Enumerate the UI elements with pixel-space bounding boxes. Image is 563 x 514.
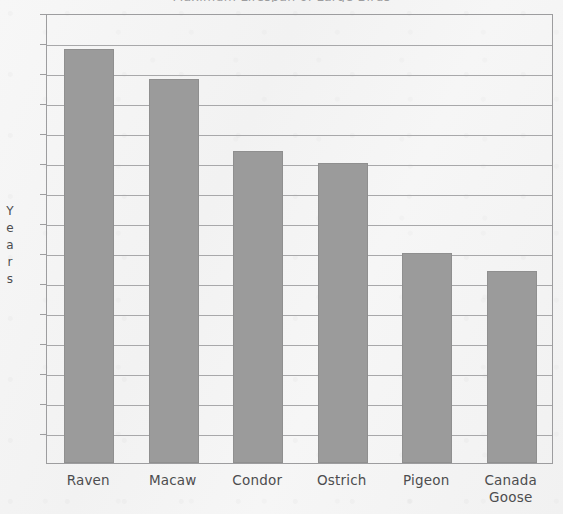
y-tick-mark [40, 14, 47, 15]
bar[interactable] [487, 271, 537, 463]
y-tick-mark [40, 344, 47, 345]
y-axis-title-letter: a [3, 237, 17, 254]
chart-title: Maximum Lifespan of Large Birds [0, 0, 563, 2]
gridline [47, 345, 552, 346]
y-tick-mark [40, 284, 47, 285]
gridline [47, 135, 552, 136]
gridline [47, 225, 552, 226]
bar[interactable] [233, 151, 283, 463]
chart-canvas: Maximum Lifespan of Large Birds Years 05… [0, 0, 563, 514]
y-tick-mark [40, 374, 47, 375]
gridline [47, 435, 552, 436]
y-axis-title-letter: Y [3, 203, 17, 220]
y-axis-title-letter: s [3, 271, 17, 288]
x-tick-label: Pigeon [384, 472, 469, 489]
gridline [47, 165, 552, 166]
gridline [47, 285, 552, 286]
y-tick-mark [40, 254, 47, 255]
bar[interactable] [149, 79, 199, 463]
y-tick-mark [40, 224, 47, 225]
gridline [47, 315, 552, 316]
gridline [47, 105, 552, 106]
y-tick-mark [40, 314, 47, 315]
plot-area [46, 14, 553, 464]
y-tick-mark [40, 44, 47, 45]
x-tick-label: Macaw [131, 472, 216, 489]
gridline [47, 45, 552, 46]
y-tick-mark [40, 104, 47, 105]
bar[interactable] [402, 253, 452, 463]
y-axis-title-letter: r [3, 254, 17, 271]
y-axis-title-letter: e [3, 220, 17, 237]
y-axis-title: Years [3, 203, 17, 288]
gridline [47, 75, 552, 76]
bar[interactable] [64, 49, 114, 463]
y-tick-mark [40, 194, 47, 195]
y-tick-mark [40, 134, 47, 135]
x-tick-label: Ostrich [300, 472, 385, 489]
y-tick-mark [40, 434, 47, 435]
gridline [47, 195, 552, 196]
x-tick-label: Condor [215, 472, 300, 489]
y-tick-mark [40, 164, 47, 165]
y-tick-mark [40, 404, 47, 405]
x-tick-label: Raven [46, 472, 131, 489]
bar[interactable] [318, 163, 368, 463]
gridline [47, 405, 552, 406]
y-tick-mark [40, 74, 47, 75]
gridline [47, 255, 552, 256]
x-tick-label: Canada Goose [469, 472, 554, 506]
gridline [47, 375, 552, 376]
